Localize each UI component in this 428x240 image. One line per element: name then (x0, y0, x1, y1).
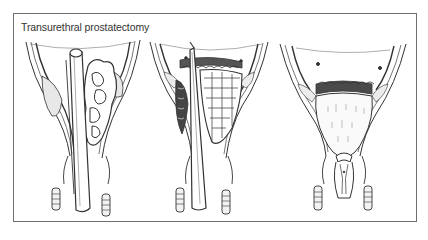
panel-resected-fossa (276, 38, 410, 220)
prostate-illustration-3 (276, 38, 410, 220)
figure-title: Transurethral prostatectomy (21, 21, 149, 33)
panel-resectoscope-insertion (22, 38, 144, 220)
prostate-illustration-2 (146, 38, 272, 220)
panel-adenoma-resection (146, 38, 272, 220)
prostate-illustration-1 (22, 38, 144, 220)
